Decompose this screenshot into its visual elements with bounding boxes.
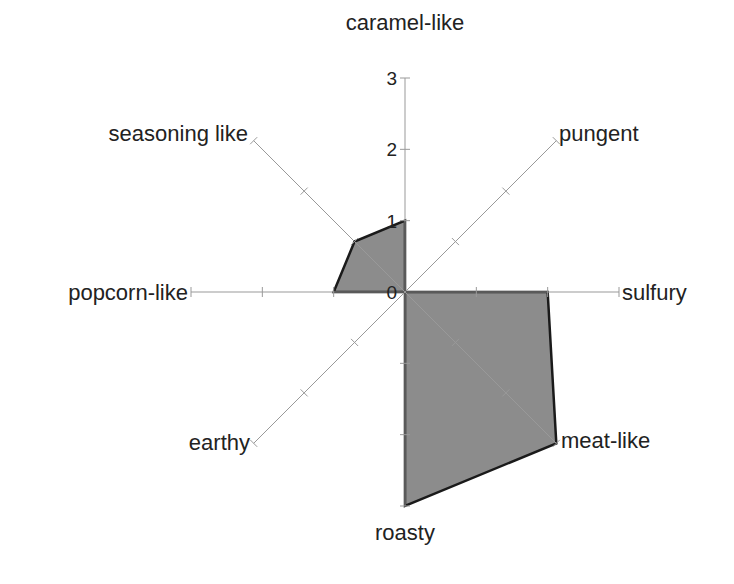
axis-label-earthy: earthy	[189, 430, 250, 455]
axis-line	[254, 292, 405, 443]
axis-label-caramel-like: caramel-like	[346, 10, 465, 35]
axis-label-seasoning-like: seasoning like	[109, 121, 248, 146]
radar-series	[334, 221, 557, 506]
axis-label-sulfury: sulfury	[622, 280, 687, 305]
tick-label: 3	[386, 68, 397, 89]
tick-label: 1	[386, 211, 397, 232]
axis-label-meat-like: meat-like	[561, 428, 650, 453]
tick-label: 2	[386, 139, 397, 160]
tick-label: 0	[386, 282, 397, 303]
axis-line	[254, 141, 405, 292]
radar-chart: 0123 caramel-likepungentsulfurymeat-like…	[0, 0, 734, 584]
axis-label-pungent: pungent	[559, 121, 639, 146]
axis-label-roasty: roasty	[375, 520, 435, 545]
axis-label-popcorn-like: popcorn-like	[68, 280, 188, 305]
radar-axes	[191, 78, 619, 506]
axis-line	[405, 141, 556, 292]
series-polygon	[334, 221, 557, 506]
